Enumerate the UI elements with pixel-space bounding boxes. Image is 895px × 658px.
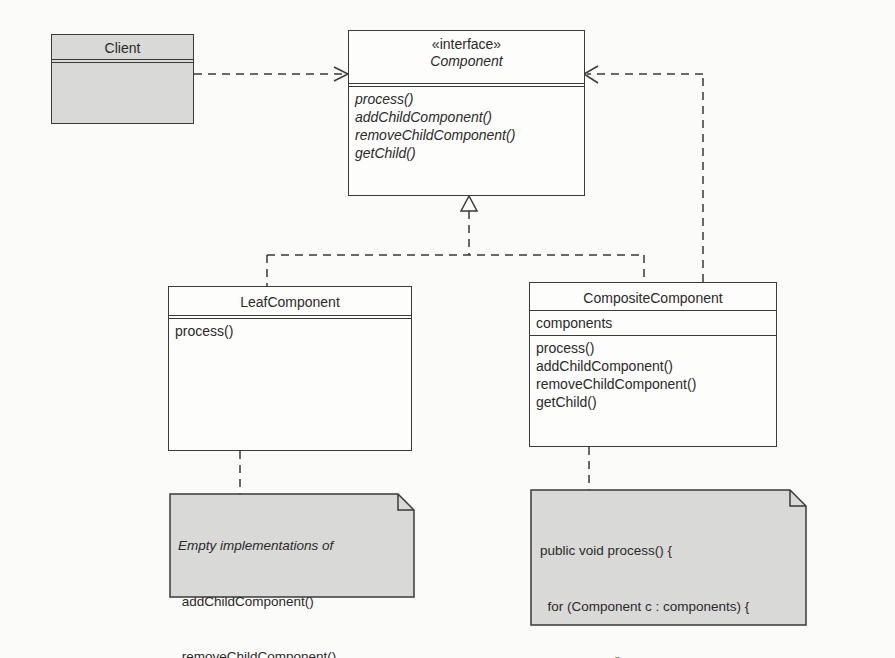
leaf-note: Empty implementations of addChildCompone… — [178, 500, 336, 658]
composite-note-line: for (Component c : components) { — [540, 598, 749, 617]
leaf-note-line: removeChildComponent() — [178, 648, 336, 658]
note-shapes — [0, 0, 895, 658]
composite-note-line: c.process(); — [540, 653, 749, 658]
leaf-note-title: Empty implementations of — [178, 537, 336, 556]
leaf-note-line: addChildComponent() — [178, 593, 336, 612]
composite-note-line: public void process() { — [540, 542, 749, 561]
composite-note: public void process() { for (Component c… — [540, 505, 749, 658]
